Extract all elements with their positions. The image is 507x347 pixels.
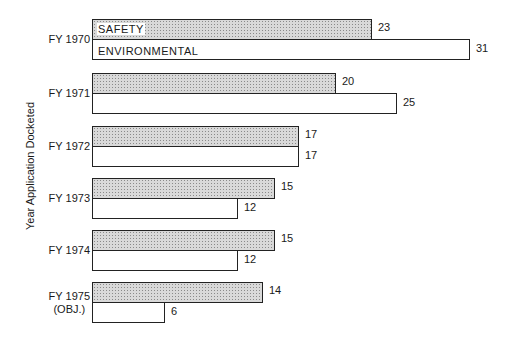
category-sublabel: (OBJ.) (49, 303, 90, 316)
category-label: FY 1972 (49, 140, 90, 153)
value-label: 15 (281, 180, 293, 192)
value-label: 17 (305, 128, 317, 140)
value-label: 31 (476, 42, 488, 54)
category-label: FY 1971 (49, 87, 90, 100)
category-label: FY 1974 (49, 244, 90, 257)
safety-bar (92, 126, 299, 147)
safety-bar (92, 230, 275, 251)
category-label: FY 1973 (49, 192, 90, 205)
environmental-bar (92, 302, 165, 323)
value-label: 6 (171, 305, 177, 317)
legend-safety: SAFETY (97, 23, 145, 35)
environmental-bar (92, 250, 238, 271)
category-label: FY 1975(OBJ.) (49, 290, 90, 316)
safety-bar (92, 282, 263, 303)
value-label: 12 (244, 201, 256, 213)
bar-chart: Year Application Docketed FY 19702331FY … (0, 0, 507, 347)
environmental-bar (92, 198, 238, 219)
safety-bar (92, 73, 336, 94)
value-label: 15 (281, 232, 293, 244)
value-label: 17 (305, 149, 317, 161)
environmental-bar (92, 93, 397, 114)
y-axis-label: Year Application Docketed (24, 102, 36, 230)
legend-environmental: ENVIRONMENTAL (97, 45, 199, 57)
value-label: 12 (244, 253, 256, 265)
value-label: 20 (342, 75, 354, 87)
environmental-bar (92, 146, 299, 167)
value-label: 25 (403, 96, 415, 108)
value-label: 23 (378, 21, 390, 33)
value-label: 14 (269, 284, 281, 296)
safety-bar (92, 178, 275, 199)
category-label: FY 1970 (49, 33, 90, 46)
